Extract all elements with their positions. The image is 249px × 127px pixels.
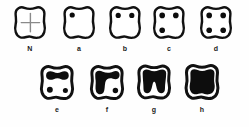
figure-cell-label: e <box>55 105 59 114</box>
tooth-outline-bar-two-dots-icon <box>36 62 78 104</box>
tooth-outline-three-dots-icon <box>149 3 189 43</box>
figure-cell-label: a <box>77 44 81 53</box>
figure-cell-stage-d: d <box>193 3 239 53</box>
figure-cell-stage-f: f <box>84 62 130 114</box>
tooth-outline-two-dots-icon <box>105 3 145 43</box>
tooth-outline-one-dot-icon <box>59 3 99 43</box>
figure-cell-label: c <box>167 44 171 53</box>
figure-cell-stage-e: e <box>34 62 80 114</box>
tooth-outline-full-fill-icon <box>180 61 224 104</box>
figure-cell-label: f <box>106 105 109 114</box>
figure-cell-stage-a: a <box>57 3 101 53</box>
figure-cell-stage-c: c <box>147 3 191 53</box>
tooth-wear-stage-figure: N a b <box>0 0 249 127</box>
figure-cell-label: d <box>214 44 218 53</box>
figure-cell-stage-g: g <box>131 61 177 114</box>
figure-cell-stage-b: b <box>103 3 147 53</box>
figure-cell-label: N <box>27 44 32 53</box>
figure-cell-stage-h: h <box>178 61 226 114</box>
tooth-outline-crosshair-icon <box>10 3 50 43</box>
tooth-outline-four-dots-icon <box>195 3 237 43</box>
figure-cell-stage-n: N <box>8 3 52 53</box>
figure-cell-label: b <box>123 44 127 53</box>
figure-cell-label: g <box>152 105 156 114</box>
tooth-outline-l-shape-icon <box>86 62 128 104</box>
figure-cell-label: h <box>200 105 204 114</box>
tooth-outline-near-full-notch-icon <box>133 61 175 104</box>
